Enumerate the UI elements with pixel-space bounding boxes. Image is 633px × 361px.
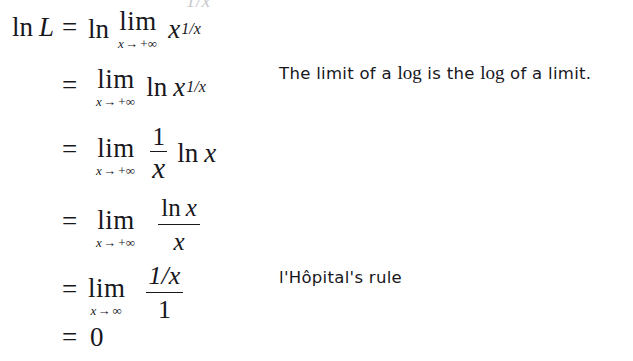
limit-operator-5: lim x→∞ bbox=[88, 275, 126, 317]
equation-line-1: lnL = ln lim x→+∞ x1/x bbox=[0, 8, 633, 54]
ln-operator-2: ln bbox=[146, 72, 167, 103]
annotation-log-rule-seg-2: log bbox=[397, 62, 421, 83]
lim-symbol-4: lim bbox=[97, 207, 135, 234]
annotation-log-rule-seg-5: of a limit. bbox=[504, 64, 591, 83]
limit-operator-4: lim x→+∞ bbox=[96, 207, 136, 249]
equals-sign-1: = bbox=[62, 12, 77, 43]
annotation-log-rule: The limit of a log is the log of a limit… bbox=[279, 62, 591, 84]
lhs-ln-L: lnL bbox=[12, 12, 54, 43]
annotation-log-rule-seg-1: The limit of a bbox=[279, 64, 397, 83]
variable-x-2: x bbox=[173, 72, 185, 103]
fraction-numerator-4: lnx bbox=[158, 194, 200, 221]
limit-operator-3: lim x→+∞ bbox=[96, 135, 136, 177]
limit-subscript-1: x→+∞ bbox=[118, 37, 158, 50]
lim-symbol-1: lim bbox=[119, 8, 157, 35]
annotation-lhopital-text: l'Hôpital's rule bbox=[279, 268, 402, 287]
variable-x-3: x bbox=[204, 138, 216, 169]
equals-sign-4: = bbox=[62, 206, 77, 237]
equation-line-6: = 0 bbox=[0, 320, 633, 360]
limit-subscript-3: x→+∞ bbox=[96, 164, 136, 177]
ln-operator-3: ln bbox=[177, 138, 198, 169]
result-value: 0 bbox=[90, 322, 104, 353]
fraction-oneoverx-over-one: 1/x 1 bbox=[146, 262, 184, 324]
annotation-log-rule-seg-4: log bbox=[480, 62, 504, 83]
fraction-one-over-x: 1 x bbox=[150, 124, 167, 184]
annotation-lhopital: l'Hôpital's rule bbox=[279, 268, 402, 287]
fraction-lnx-over-x: lnx x bbox=[158, 194, 200, 256]
lim-symbol-5: lim bbox=[88, 275, 126, 302]
fraction-numerator-5: 1/x bbox=[146, 262, 184, 289]
equation-line-4: = lim x→+∞ lnx x bbox=[0, 190, 633, 252]
variable-x-1: x bbox=[168, 14, 180, 45]
ln-operator-outer-1: ln bbox=[88, 14, 109, 45]
lim-symbol-2: lim bbox=[97, 66, 135, 93]
equals-sign-6: = bbox=[62, 322, 77, 353]
limit-subscript-5: x→∞ bbox=[90, 304, 123, 317]
equals-sign-5: = bbox=[62, 274, 77, 305]
fraction-denominator-3: x bbox=[152, 153, 165, 183]
limit-operator-1: lim x→+∞ bbox=[118, 8, 158, 50]
fraction-bar-4 bbox=[158, 224, 200, 225]
limit-operator-2: lim x→+∞ bbox=[96, 66, 136, 108]
limit-subscript-2: x→+∞ bbox=[96, 95, 136, 108]
math-derivation-page: 1/x lnL = ln lim x→+∞ x1/x = lim bbox=[0, 0, 633, 361]
lim-symbol-3: lim bbox=[97, 135, 135, 162]
equals-sign-2: = bbox=[62, 70, 77, 101]
annotation-log-rule-seg-3: is the bbox=[422, 64, 480, 83]
equals-sign-3: = bbox=[62, 134, 77, 165]
ln-operator: ln bbox=[12, 12, 33, 42]
fraction-numerator-3: 1 bbox=[152, 124, 165, 150]
limit-subscript-4: x→+∞ bbox=[96, 236, 136, 249]
fraction-bar-5 bbox=[146, 292, 184, 293]
variable-L: L bbox=[39, 12, 54, 42]
fraction-denominator-4: x bbox=[170, 228, 187, 255]
equation-line-3: = lim x→+∞ 1 x ln x bbox=[0, 122, 633, 178]
